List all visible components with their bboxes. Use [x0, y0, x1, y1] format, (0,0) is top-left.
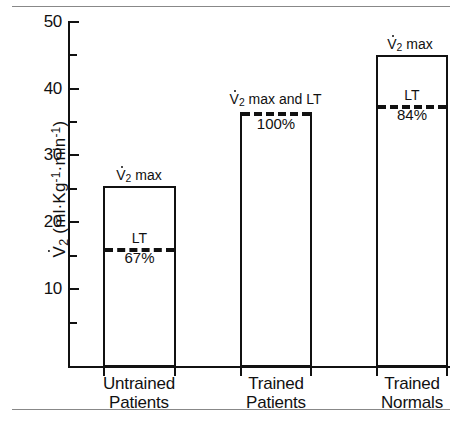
bar-2-label-rest: max and LT [245, 91, 322, 107]
y-tick-label-10: 10 [30, 280, 62, 297]
y-tick-label-50: 50 [30, 13, 62, 30]
y-tick-label-40: 40 [30, 80, 62, 97]
x-category-line-1: Trained [226, 374, 326, 393]
bar-trained-patients[interactable] [240, 112, 312, 367]
bar-3-label-rest: max [402, 36, 432, 52]
x-category-line-2: Patients [226, 393, 326, 412]
bar-2-percent-label: 100% [240, 116, 312, 132]
x-category-untrained-patients: Untrained Patients [89, 374, 189, 412]
y-tick-5 [70, 322, 77, 324]
y-tick-40 [70, 88, 79, 90]
vo2-bar-chart: V2 (ml·Kg-1·min-1) 50 40 30 20 10 V2 max… [0, 0, 459, 421]
y-tick-35 [70, 121, 77, 123]
y-tick-50 [70, 21, 79, 23]
y-title-sup-kg: -1 [49, 171, 63, 182]
y-tick-label-30: 30 [30, 146, 62, 163]
x-category-line-2: Patients [89, 393, 189, 412]
bar-2-top-label: V2 max and LT [211, 92, 340, 110]
bar-3-lt-label: LT [376, 88, 448, 103]
x-category-line-1: Trained [362, 374, 459, 393]
bar-1-label-rest: max [131, 167, 161, 183]
y-tick-30 [70, 154, 79, 156]
x-category-trained-patients: Trained Patients [226, 374, 326, 412]
bar-1-lt-label: LT [103, 231, 176, 246]
y-tick-25 [70, 188, 77, 190]
vdot-glyph: V [230, 92, 239, 107]
vdot-glyph: V [116, 168, 125, 183]
vdot-glyph: V [387, 37, 396, 52]
x-category-line-2: Normals [362, 393, 459, 412]
bar-1-top-label: V2 max [98, 168, 180, 186]
bar-untrained-patients[interactable] [103, 186, 176, 367]
y-axis-line [68, 21, 70, 367]
y-tick-45 [70, 54, 77, 56]
bar-3-percent-label: 84% [376, 107, 448, 123]
y-title-sup-min: -1 [49, 127, 63, 138]
y-tick-20 [70, 221, 79, 223]
bar-3-top-label: V2 max [369, 37, 451, 55]
y-tick-15 [70, 255, 77, 257]
y-tick-label-20: 20 [30, 213, 62, 230]
bar-1-percent-label: 67% [103, 250, 176, 266]
y-title-suffix: ) [50, 121, 69, 127]
x-category-line-1: Untrained [89, 374, 189, 393]
y-tick-10 [70, 288, 79, 290]
x-category-trained-normals: Trained Normals [362, 374, 459, 412]
